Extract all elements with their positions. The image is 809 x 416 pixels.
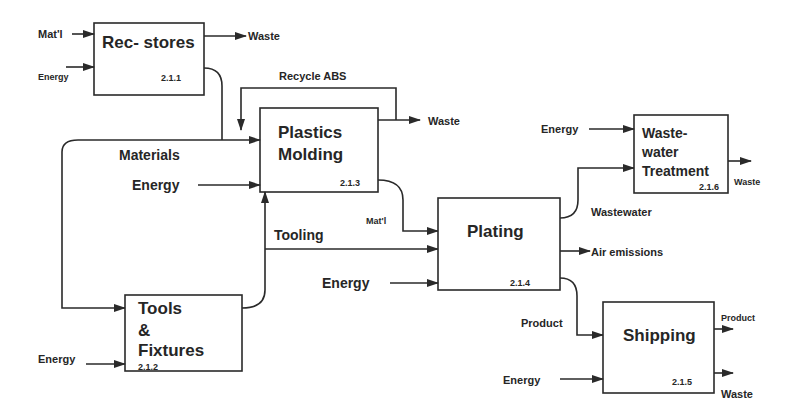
- plating-id: 2.1.4: [510, 278, 530, 288]
- tools-energy-input-label: Energy: [38, 353, 76, 365]
- materials-to-tools-arrow: [62, 300, 125, 308]
- plastics-molding-title-line1: Plastics: [278, 123, 342, 142]
- shipping-id: 2.1.5: [672, 377, 692, 387]
- wwt-title-line3: Treatment: [642, 163, 709, 179]
- tools-fixtures-title-line3: Fixtures: [138, 341, 204, 360]
- plating-energy-input-label: Energy: [322, 275, 370, 291]
- wastewater-label: Wastewater: [591, 206, 652, 218]
- tools-fixtures-title-line2: &: [138, 321, 150, 340]
- wwt-title-line1: Waste-: [642, 125, 688, 141]
- recycle-abs-label: Recycle ABS: [279, 70, 346, 82]
- shipping-title: Shipping: [623, 326, 696, 345]
- wwt-waste-output-label: Waste: [734, 177, 760, 187]
- molding-energy-input-label: Energy: [132, 177, 180, 193]
- shipping-product-output-label: Product: [721, 313, 755, 323]
- matl-to-plating-label: Mat'l: [366, 216, 386, 226]
- tools-fixtures-id: 2.1.2: [138, 362, 158, 372]
- materials-label: Materials: [119, 147, 180, 163]
- process-flow-diagram: Rec- stores 2.1.1 Mat'l Energy Waste Pla…: [0, 0, 809, 416]
- plastics-molding-title-line2: Molding: [278, 145, 343, 164]
- rec-stores-to-molding-connector: [204, 68, 222, 140]
- wwt-energy-input-label: Energy: [541, 123, 579, 135]
- matl-to-plating-arrow: [378, 180, 438, 231]
- plating-box: Plating 2.1.4: [438, 198, 560, 290]
- tools-fixtures-box: Tools & Fixtures 2.1.2: [125, 295, 242, 372]
- shipping-energy-input-label: Energy: [503, 374, 541, 386]
- rec-stores-box: Rec- stores 2.1.1: [94, 23, 204, 95]
- product-to-shipping-label: Product: [521, 317, 563, 329]
- product-to-shipping-arrow: [560, 278, 603, 335]
- tools-fixtures-title-line1: Tools: [138, 299, 182, 318]
- shipping-waste-output-label: Waste: [721, 388, 753, 400]
- materials-flow-arrow: [62, 140, 260, 300]
- wwt-id: 2.1.6: [699, 182, 719, 192]
- tools-to-molding-arrow: [242, 192, 265, 308]
- plastics-molding-box: Plastics Molding 2.1.3: [260, 108, 378, 192]
- tooling-label: Tooling: [274, 227, 324, 243]
- wwt-title-line2: water: [641, 144, 679, 160]
- molding-waste-output-label: Waste: [428, 115, 460, 127]
- wastewater-treatment-box: Waste- water Treatment 2.1.6: [634, 115, 728, 193]
- shipping-box: Shipping 2.1.5: [603, 302, 714, 393]
- rec-energy-input-label: Energy: [38, 72, 69, 82]
- rec-stores-id: 2.1.1: [161, 73, 181, 83]
- rec-matl-input-label: Mat'l: [38, 28, 63, 40]
- rec-waste-output-label: Waste: [248, 30, 280, 42]
- air-emissions-label: Air emissions: [591, 246, 663, 258]
- rec-stores-title: Rec- stores: [102, 33, 195, 52]
- plastics-molding-id: 2.1.3: [340, 178, 360, 188]
- plating-title: Plating: [467, 222, 524, 241]
